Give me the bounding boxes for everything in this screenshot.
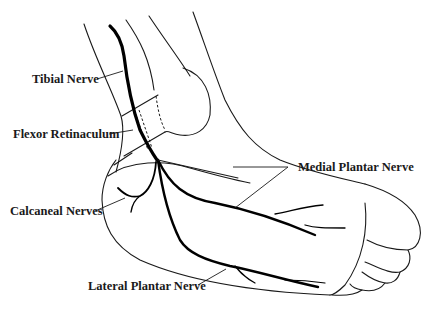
- label-calcaneal-nerves: Calcaneal Nerves: [10, 205, 103, 218]
- leg-outline: [84, 12, 365, 184]
- flexor-retinaculum-band: [122, 95, 165, 156]
- toes-outline: [330, 184, 420, 295]
- medial-malleolus: [165, 68, 210, 135]
- lateral-plantar-nerve: [158, 160, 318, 287]
- label-lateral-plantar-nerve: Lateral Plantar Nerve: [88, 280, 206, 293]
- label-flexor-retinaculum: Flexor Retinaculum: [13, 128, 119, 141]
- medial-plantar-nerve: [158, 160, 315, 235]
- junction-line: [158, 160, 238, 178]
- heel-sole-outline: [102, 153, 330, 295]
- foot-nerve-diagram: [0, 0, 429, 312]
- label-medial-plantar-nerve: Medial Plantar Nerve: [298, 161, 414, 174]
- label-tibial-nerve: Tibial Nerve: [32, 73, 99, 86]
